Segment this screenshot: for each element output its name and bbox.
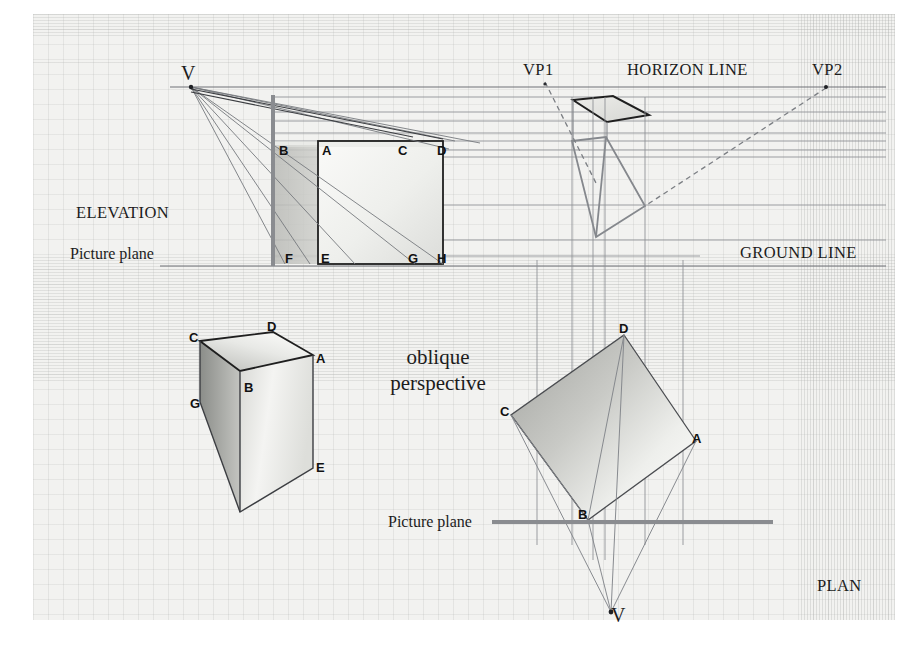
oblique-box	[200, 332, 313, 512]
diagram-canvas: V VP1 HORIZON LINE VP2 ELEVATION Picture…	[0, 0, 922, 645]
caption-line-1: oblique	[368, 345, 508, 371]
vp2-label: VP2	[812, 62, 843, 79]
plan-diamond	[511, 335, 696, 520]
elevation-vertex-e: E	[321, 252, 330, 265]
plan-section-label: PLAN	[817, 578, 862, 595]
elevation-section-label: ELEVATION	[76, 205, 169, 222]
oblique-box-vertex-e: E	[316, 461, 325, 474]
oblique-box-vertex-c: C	[189, 331, 198, 344]
picture-plane-label-plan: Picture plane	[388, 514, 472, 530]
plan-vertex-d: D	[619, 322, 628, 335]
picture-plane-label-elevation: Picture plane	[70, 246, 154, 262]
elevation-vertex-f: F	[285, 252, 293, 265]
perspective-construction-drawing	[0, 0, 922, 645]
elevation-station-point-dot	[189, 85, 193, 89]
oblique-box-vertex-a: A	[316, 352, 325, 365]
ground-line-label: GROUND LINE	[740, 245, 857, 262]
vp1-label: VP1	[523, 62, 554, 79]
elevation-vertex-c: C	[398, 144, 407, 157]
elevation-vertex-b: B	[279, 144, 288, 157]
plan-vertex-b: B	[578, 508, 587, 521]
oblique-perspective-caption: oblique perspective	[368, 345, 508, 396]
elevation-vertex-d: D	[437, 144, 446, 157]
elevation-vertex-g: G	[408, 252, 418, 265]
elevation-station-point-label: V	[181, 63, 195, 83]
oblique-box-vertex-d: D	[267, 320, 276, 333]
elevation-vertex-a: A	[322, 144, 331, 157]
plan-station-point-label: V	[611, 605, 625, 625]
perspective-cube-construction	[572, 96, 649, 237]
elevation-vertex-h: H	[437, 252, 446, 265]
vp2-dashed-ray	[645, 85, 828, 206]
horizon-line-label: HORIZON LINE	[627, 62, 748, 79]
oblique-box-vertex-g: G	[190, 397, 200, 410]
caption-line-2: perspective	[368, 371, 508, 397]
plan-vertex-c: C	[500, 405, 509, 418]
plan-vertex-a: A	[692, 432, 701, 445]
oblique-box-vertex-b: B	[244, 381, 253, 394]
